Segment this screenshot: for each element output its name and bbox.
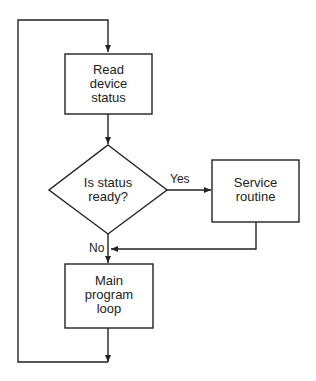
service-line-1: Service: [212, 176, 299, 190]
read-line-1: Read: [65, 63, 152, 77]
read-status-label: Read device status: [65, 63, 152, 105]
service-return-arrow: [111, 222, 256, 249]
main-loop-label: Main program loop: [65, 274, 153, 316]
read-line-3: status: [65, 91, 152, 105]
main-line-1: Main: [65, 274, 153, 288]
decision-line-1: Is status: [68, 176, 148, 190]
read-line-2: device: [65, 77, 152, 91]
service-routine-label: Service routine: [212, 176, 299, 204]
yes-label: Yes: [170, 172, 190, 186]
main-line-3: loop: [65, 302, 153, 316]
main-line-2: program: [65, 288, 153, 302]
service-line-2: routine: [212, 190, 299, 204]
no-label: No: [89, 241, 104, 255]
decision-line-2: ready?: [68, 190, 148, 204]
decision-label: Is status ready?: [68, 176, 148, 204]
